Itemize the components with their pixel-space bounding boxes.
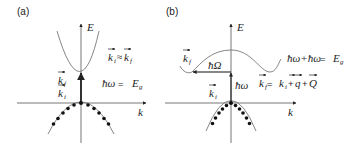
- conduction-band-curve: [57, 31, 99, 72]
- svg-text:=: =: [118, 78, 124, 89]
- svg-text:ħω+ħω: ħω+ħω: [287, 52, 321, 64]
- energy-axis-label: E: [236, 21, 244, 33]
- svg-text:=: =: [267, 78, 273, 89]
- energy-relation-label: ħω+ħω = E g: [287, 52, 344, 66]
- svg-text:=: =: [320, 53, 326, 64]
- kf-label: k f: [183, 50, 192, 66]
- svg-text:+: +: [302, 78, 308, 89]
- momentum-relation-label: k i ≈ k f: [108, 49, 133, 65]
- panel-b-label: (b): [166, 6, 178, 17]
- svg-text:f: f: [130, 57, 133, 65]
- svg-text:i: i: [64, 93, 66, 101]
- panel-a-label: (a): [17, 6, 29, 17]
- panel-b: (b) E k k f: [165, 6, 344, 143]
- svg-text:≈: ≈: [117, 51, 122, 62]
- momentum-axis-label: k: [288, 106, 294, 118]
- svg-text:ħω: ħω: [102, 77, 116, 89]
- energy-relation-label: ħω = E g: [102, 77, 143, 91]
- svg-text:+: +: [288, 78, 294, 89]
- panel-a: (a) E k k f: [17, 6, 146, 143]
- svg-text:f: f: [189, 58, 192, 66]
- svg-text:Q: Q: [309, 77, 317, 89]
- svg-text:E: E: [332, 52, 340, 64]
- phonon-energy-label: ħΩ: [208, 59, 222, 71]
- ki-label: k i: [209, 85, 217, 101]
- svg-text:i: i: [114, 57, 116, 65]
- svg-text:i: i: [285, 83, 287, 91]
- svg-text:g: g: [139, 83, 143, 91]
- energy-axis-label: E: [86, 21, 94, 33]
- photon-energy-label: ħω: [235, 79, 249, 91]
- conduction-band-curve: [180, 50, 281, 73]
- momentum-axis-label: k: [138, 106, 144, 118]
- svg-text:i: i: [215, 93, 217, 101]
- svg-text:E: E: [131, 77, 139, 89]
- band-diagram: (a) E k k f: [0, 0, 361, 150]
- svg-text:q: q: [295, 77, 301, 89]
- kf-label: k f: [58, 72, 67, 88]
- svg-text:f: f: [64, 80, 67, 88]
- momentum-conservation-label: k f = k i + q + Q: [259, 75, 317, 91]
- svg-text:g: g: [340, 58, 344, 66]
